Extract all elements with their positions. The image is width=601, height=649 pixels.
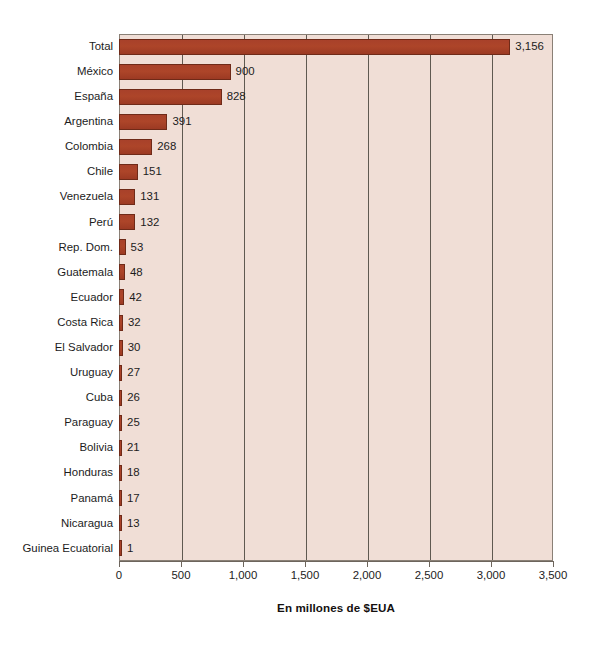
- bar-group: 3,156: [119, 34, 544, 59]
- category-label: Ecuador: [0, 292, 113, 303]
- chart-row: España828: [0, 84, 601, 109]
- bar-value-label: 42: [129, 292, 142, 303]
- bar-group: 25: [119, 410, 140, 435]
- chart-row: Argentina391: [0, 109, 601, 134]
- x-axis-tick-labels: 05001,0001,5002,0002,5003,0003,500: [0, 570, 601, 586]
- bar-value-label: 131: [140, 191, 159, 202]
- bar-group: 42: [119, 285, 142, 310]
- x-axis-tick: [429, 561, 430, 567]
- bar-chart-figure: Total3,156México900España828Argentina391…: [0, 0, 601, 649]
- bar-value-label: 18: [127, 467, 140, 478]
- bar: [119, 315, 123, 331]
- bar-value-label: 17: [127, 493, 140, 504]
- chart-row: Paraguay25: [0, 410, 601, 435]
- x-axis-tick: [305, 561, 306, 567]
- category-label: Bolivia: [0, 442, 113, 453]
- bar: [119, 264, 125, 280]
- x-axis-title: En millones de $EUA: [119, 601, 553, 614]
- bar-group: 27: [119, 360, 140, 385]
- chart-row: Nicaragua13: [0, 511, 601, 536]
- bar-value-label: 32: [128, 317, 141, 328]
- bar-value-label: 391: [172, 116, 191, 127]
- bar: [119, 239, 126, 255]
- bar-group: 17: [119, 486, 140, 511]
- bar-group: 391: [119, 109, 191, 134]
- bar: [119, 189, 135, 205]
- bar: [119, 139, 152, 155]
- chart-row: Honduras18: [0, 461, 601, 486]
- x-axis-tick-label: 1,500: [291, 570, 320, 581]
- x-axis-tick-label: 3,500: [539, 570, 568, 581]
- bar: [119, 465, 122, 481]
- bar-group: 132: [119, 210, 159, 235]
- category-label: Chile: [0, 166, 113, 177]
- bar-group: 18: [119, 461, 140, 486]
- bar: [119, 515, 122, 531]
- category-label: España: [0, 91, 113, 102]
- category-label: México: [0, 66, 113, 77]
- bar-group: 1: [119, 536, 133, 561]
- category-label: Nicaragua: [0, 518, 113, 529]
- bar-value-label: 151: [143, 166, 162, 177]
- category-label: Cuba: [0, 392, 113, 403]
- bar-group: 268: [119, 134, 176, 159]
- bar-group: 26: [119, 385, 140, 410]
- bar-group: 21: [119, 436, 140, 461]
- x-axis-tick-label: 3,000: [477, 570, 506, 581]
- bar-value-label: 1: [127, 543, 133, 554]
- category-label: Paraguay: [0, 417, 113, 428]
- bar-group: 30: [119, 335, 140, 360]
- chart-row: Panamá17: [0, 486, 601, 511]
- category-label: Rep. Dom.: [0, 242, 113, 253]
- category-label: Argentina: [0, 116, 113, 127]
- bar-value-label: 900: [236, 66, 255, 77]
- bar-group: 48: [119, 260, 143, 285]
- bar-value-label: 3,156: [515, 41, 544, 52]
- bar-value-label: 26: [127, 392, 140, 403]
- bar: [119, 390, 122, 406]
- bar-value-label: 132: [140, 217, 159, 228]
- bar: [119, 214, 135, 230]
- bar: [119, 39, 510, 55]
- chart-row: México900: [0, 59, 601, 84]
- bar-value-label: 21: [127, 442, 140, 453]
- x-axis-tick: [367, 561, 368, 567]
- bar: [119, 89, 222, 105]
- bar-group: 53: [119, 235, 143, 260]
- chart-row: Perú132: [0, 210, 601, 235]
- x-axis-tick-label: 2,000: [353, 570, 382, 581]
- bar: [119, 540, 122, 556]
- x-axis-tick-label: 2,500: [415, 570, 444, 581]
- bar-group: 828: [119, 84, 246, 109]
- category-label: Perú: [0, 217, 113, 228]
- bar-value-label: 30: [128, 342, 141, 353]
- category-label: Costa Rica: [0, 317, 113, 328]
- chart-row: Guinea Ecuatorial1: [0, 536, 601, 561]
- category-label: Colombia: [0, 141, 113, 152]
- category-label: Guinea Ecuatorial: [0, 543, 113, 554]
- x-axis-tick: [491, 561, 492, 567]
- category-label: Total: [0, 41, 113, 52]
- chart-rows: Total3,156México900España828Argentina391…: [0, 34, 601, 561]
- bar-value-label: 268: [157, 141, 176, 152]
- chart-row: Rep. Dom.53: [0, 235, 601, 260]
- category-label: Uruguay: [0, 367, 113, 378]
- bar-group: 131: [119, 185, 159, 210]
- bar-value-label: 27: [127, 367, 140, 378]
- bar: [119, 440, 122, 456]
- chart-row: Total3,156: [0, 34, 601, 59]
- x-axis-tick-label: 1,000: [229, 570, 258, 581]
- category-label: Panamá: [0, 493, 113, 504]
- bar: [119, 340, 123, 356]
- bar-group: 32: [119, 310, 141, 335]
- x-axis-tick-label: 500: [171, 570, 190, 581]
- bar: [119, 415, 122, 431]
- bar-group: 151: [119, 159, 162, 184]
- category-label: Guatemala: [0, 267, 113, 278]
- bar-group: 13: [119, 511, 140, 536]
- bar-value-label: 25: [127, 417, 140, 428]
- category-label: Venezuela: [0, 191, 113, 202]
- chart-row: Guatemala48: [0, 260, 601, 285]
- chart-row: Ecuador42: [0, 285, 601, 310]
- chart-row: Chile151: [0, 159, 601, 184]
